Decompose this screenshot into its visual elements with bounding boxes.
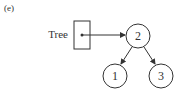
edge-root-right xyxy=(144,47,155,64)
node-left-value: 1 xyxy=(112,69,118,83)
binary-tree-diagram: Tree 2 1 3 xyxy=(0,0,180,99)
node-root-value: 2 xyxy=(135,29,141,43)
tree-pointer-label: Tree xyxy=(48,28,68,40)
node-right-value: 3 xyxy=(158,69,164,83)
edge-root-left xyxy=(121,47,132,64)
